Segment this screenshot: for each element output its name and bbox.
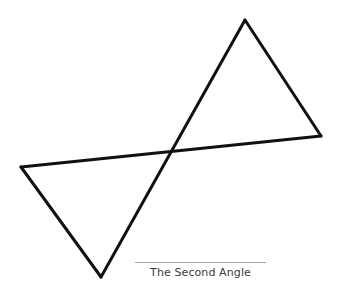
bowtie-diagram bbox=[0, 0, 338, 297]
caption-divider bbox=[135, 262, 266, 263]
figure-caption: The Second Angle bbox=[135, 266, 266, 279]
edge-left-bottom bbox=[21, 167, 101, 277]
crossing-line-diagonal bbox=[101, 20, 245, 277]
edge-top-right bbox=[245, 20, 321, 136]
